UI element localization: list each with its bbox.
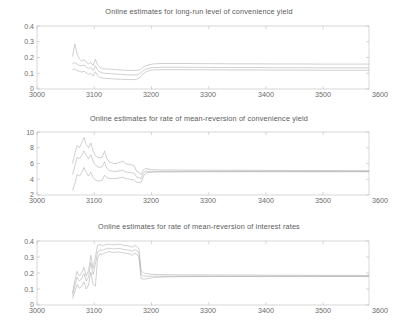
series-line (72, 138, 369, 175)
ytick-label: 10 (12, 129, 34, 136)
ytick-label: 0.2 (12, 54, 34, 61)
xtick-label: 3000 (17, 91, 57, 99)
ytick-label: 4 (12, 176, 34, 183)
subplot-long-run-level-convenience-yield: Online estimates for long-run level of c… (0, 0, 398, 108)
xtick-label: 3300 (188, 91, 228, 99)
series-line (72, 44, 369, 70)
ytick-label: 8 (12, 144, 34, 151)
xtick-label: 3200 (131, 91, 171, 99)
data-lines (72, 138, 369, 191)
plot-area (37, 26, 369, 89)
tick-marks (37, 132, 369, 195)
ytick-label: 0.4 (12, 238, 34, 245)
xtick-label: 3100 (74, 197, 114, 205)
xtick-label: 3000 (17, 197, 57, 205)
subplot-mean-reversion-convenience-yield: Online estimates for rate of mean-revers… (0, 107, 398, 215)
xtick-label: 3500 (303, 197, 343, 205)
ytick-label: 0.2 (12, 270, 34, 277)
axes-frame (37, 26, 369, 89)
ytick-label: 0.1 (12, 286, 34, 293)
series-line (72, 248, 369, 295)
matlab-figure: Online estimates for long-run level of c… (0, 0, 398, 325)
xtick-label: 3600 (360, 197, 398, 205)
series-line (72, 63, 369, 75)
axes-frame (37, 241, 369, 305)
series-line (72, 244, 369, 293)
plot-svg (37, 132, 369, 195)
xtick-label: 3100 (74, 307, 114, 315)
xtick-label: 3500 (303, 91, 343, 99)
ytick-label: 6 (12, 160, 34, 167)
tick-marks (37, 26, 369, 89)
tick-marks (37, 241, 369, 305)
xtick-label: 3600 (360, 91, 398, 99)
xtick-label: 3400 (246, 91, 286, 99)
xtick-label: 3200 (131, 197, 171, 205)
plot-area (37, 241, 369, 305)
xtick-label: 3100 (74, 91, 114, 99)
data-lines (72, 244, 369, 298)
panel-title: Online estimates for rate of mean-revers… (0, 222, 398, 231)
xtick-label: 3400 (246, 307, 286, 315)
plot-svg (37, 26, 369, 89)
plot-svg (37, 241, 369, 305)
subplot-mean-reversion-interest-rates: Online estimates for rate of mean-revers… (0, 211, 398, 325)
ytick-label: 0.4 (12, 23, 34, 30)
plot-area (37, 132, 369, 195)
axes-frame (37, 132, 369, 195)
xtick-label: 3200 (131, 307, 171, 315)
ytick-label: 0.1 (12, 70, 34, 77)
xtick-label: 3000 (17, 307, 57, 315)
xtick-label: 3300 (188, 197, 228, 205)
ytick-label: 0.3 (12, 38, 34, 45)
xtick-label: 3400 (246, 197, 286, 205)
panel-title: Online estimates for rate of mean-revers… (0, 114, 398, 123)
xtick-label: 3600 (360, 307, 398, 315)
xtick-label: 3300 (188, 307, 228, 315)
ytick-label: 0.3 (12, 254, 34, 261)
series-line (72, 151, 369, 179)
xtick-label: 3500 (303, 307, 343, 315)
data-lines (72, 44, 369, 79)
panel-title: Online estimates for long-run level of c… (0, 7, 398, 16)
